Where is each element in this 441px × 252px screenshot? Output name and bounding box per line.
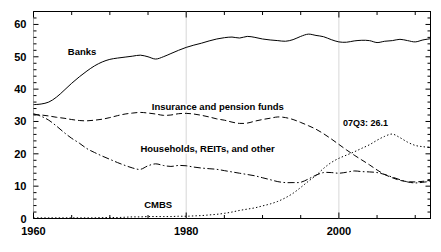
annotation-0: 07Q3: 26.1 [343,118,388,128]
x-tick-label-2000: 2000 [327,225,351,237]
series-line-banks [34,34,431,105]
series-label-households-reits-and-other: Households, REITs, and other [140,143,275,154]
series-label-banks: Banks [68,46,97,57]
series-label-cmbs: CMBS [144,199,172,210]
y-tick-label-40: 40 [14,83,26,95]
y-tick-label-10: 10 [14,180,26,192]
y-tick-label-30: 30 [14,115,26,127]
y-tick-label-60: 60 [14,18,26,30]
line-chart: 1960198020000102030405060BanksBanksInsur… [0,0,441,252]
plot-frame [34,12,431,219]
y-tick-label-20: 20 [14,148,26,160]
x-tick-label-1980: 1980 [174,225,198,237]
y-tick-label-0: 0 [20,213,26,225]
chart-container: 1960198020000102030405060BanksBanksInsur… [0,0,441,252]
y-tick-label-50: 50 [14,51,26,63]
series-label-insurance-and-pension-funds: Insurance and pension funds [152,101,284,112]
x-tick-label-1960: 1960 [21,225,45,237]
